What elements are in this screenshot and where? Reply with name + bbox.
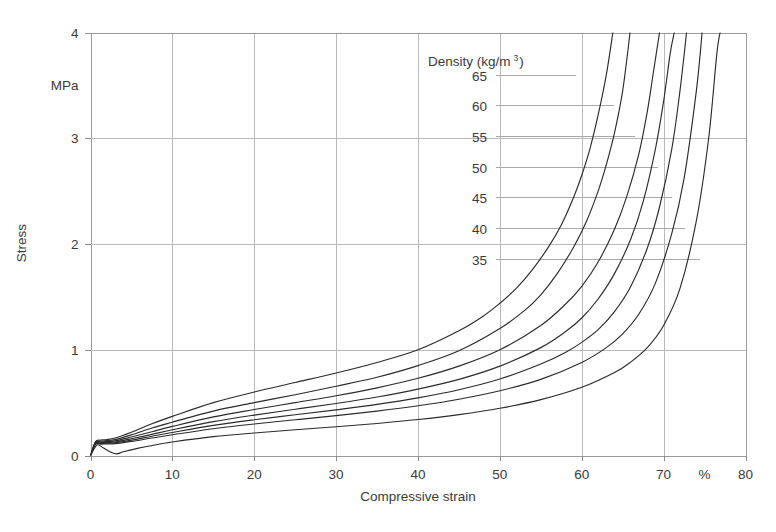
- chart-background: [0, 0, 776, 532]
- x-tick-label: 80: [738, 467, 753, 482]
- legend-density-value: 45: [472, 191, 487, 206]
- x-tick-label: 0: [87, 467, 95, 482]
- y-tick-label: 1: [71, 343, 79, 358]
- x-tick-label: 50: [492, 467, 507, 482]
- x-tick-label: 60: [574, 467, 589, 482]
- legend-density-value: 65: [472, 69, 487, 84]
- x-tick-label: 40: [410, 467, 425, 482]
- x-tick-label: 70: [656, 467, 671, 482]
- x-tick-label: 30: [329, 467, 344, 482]
- y-tick-label: 3: [71, 131, 79, 146]
- x-tick-label: 20: [247, 467, 262, 482]
- y-axis-unit-label: MPa: [51, 78, 79, 93]
- stress-strain-chart: 01020304050607080 01234 65605550454035 %…: [0, 0, 776, 532]
- y-tick-label: 2: [71, 237, 79, 252]
- legend-density-value: 40: [472, 222, 487, 237]
- legend-density-value: 55: [472, 130, 487, 145]
- legend-density-value: 35: [472, 253, 487, 268]
- legend-density-value: 60: [472, 99, 487, 114]
- legend-title: Density (kg/m3): [428, 53, 524, 69]
- x-tick-label: 10: [165, 467, 180, 482]
- legend-density-value: 50: [472, 161, 487, 176]
- y-axis-title: Stress: [14, 224, 29, 263]
- chart-root: 01020304050607080 01234 65605550454035 %…: [0, 0, 776, 532]
- x-axis-title: Compressive strain: [360, 489, 476, 504]
- y-tick-label: 4: [71, 26, 79, 41]
- x-axis-unit-label: %: [699, 467, 711, 482]
- y-tick-label: 0: [71, 449, 79, 464]
